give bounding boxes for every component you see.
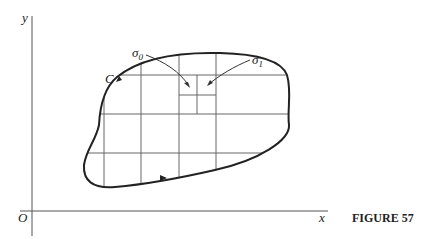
- origin-label: O: [18, 210, 28, 225]
- sigma1-label: σ1: [252, 52, 263, 69]
- x-axis-label: x: [318, 210, 325, 225]
- y-axis-label: y: [20, 10, 28, 25]
- curve-label: C: [105, 71, 114, 86]
- sigma0-label: σ0: [132, 45, 143, 62]
- sigma0-arrow-icon: [184, 82, 190, 88]
- figure-caption: FIGURE 57: [352, 211, 414, 225]
- sigma1-leader: [208, 60, 250, 85]
- figure-diagram: y x O C σ0 σ1 FIGURE 57: [0, 0, 428, 239]
- region-boundary-curve: [84, 53, 289, 187]
